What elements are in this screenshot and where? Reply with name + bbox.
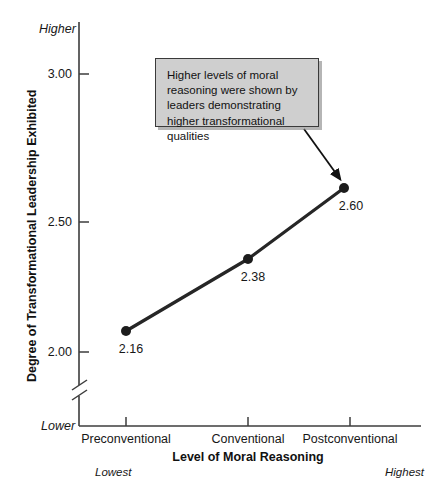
x-category-label-postconventional: Postconventional bbox=[302, 433, 397, 446]
data-point-marker bbox=[243, 254, 253, 264]
data-point-marker bbox=[121, 326, 131, 336]
data-point-label-2: 2.38 bbox=[241, 271, 265, 284]
x-category-label-preconventional: Preconventional bbox=[81, 433, 171, 446]
chart-figure: Higher Lower 3.00 2.50 2.00 Degree of Tr… bbox=[0, 0, 444, 485]
x-range-low-label: Lowest bbox=[95, 467, 131, 479]
y-axis-high-label: Higher bbox=[39, 23, 76, 36]
y-tick-label-300: 3.00 bbox=[38, 68, 72, 81]
x-category-label-conventional: Conventional bbox=[212, 433, 285, 446]
x-range-high-label: Highest bbox=[385, 467, 424, 479]
y-tick-label-250: 2.50 bbox=[38, 216, 72, 229]
data-line bbox=[126, 188, 344, 331]
y-axis-low-label: Lower bbox=[41, 420, 75, 433]
x-axis-title: Level of Moral Reasoning bbox=[172, 451, 323, 464]
y-axis-title: Degree of Transformational Leadership Ex… bbox=[25, 90, 39, 382]
data-point-label-1: 2.16 bbox=[119, 343, 143, 356]
data-point-marker bbox=[339, 183, 349, 193]
y-tick-label-200: 2.00 bbox=[38, 346, 72, 359]
annotation-callout-text: Higher levels of moral reasoning were sh… bbox=[167, 68, 315, 144]
annotation-callout: Higher levels of moral reasoning were sh… bbox=[155, 58, 319, 127]
data-point-label-3: 2.60 bbox=[339, 200, 363, 213]
